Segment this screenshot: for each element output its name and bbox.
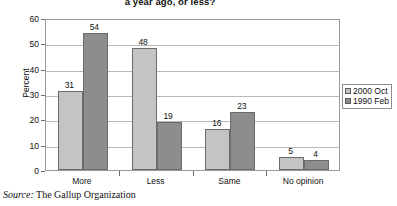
bar-same-2000-oct: [205, 129, 230, 170]
y-tick-label: 50: [13, 40, 39, 49]
y-axis-title: Percent: [21, 53, 31, 113]
chart-title: a year ago, or less?: [0, 0, 340, 7]
x-group-separator: [119, 171, 120, 176]
bar-value-label: 5: [278, 147, 303, 156]
bar-no-opinion-1990-feb: [304, 160, 329, 170]
bar-value-label: 48: [131, 38, 156, 47]
legend-item-2000-oct[interactable]: 2000 Oct: [345, 86, 389, 96]
legend-label: 1990 Feb: [353, 97, 389, 106]
bar-value-label: 16: [204, 119, 229, 128]
x-category-label: More: [45, 177, 119, 186]
y-tick-label: 60: [13, 15, 39, 24]
y-tick-label: 30: [13, 91, 39, 100]
legend-swatch-icon: [345, 98, 351, 104]
y-tick-label: 40: [13, 66, 39, 75]
bar-value-label: 19: [156, 112, 181, 121]
bar-less-1990-feb: [157, 122, 182, 170]
bar-value-label: 31: [57, 81, 82, 90]
bar-less-2000-oct: [132, 48, 157, 170]
source-note: Source: The Gallup Organization: [3, 189, 136, 200]
chart-legend: 2000 Oct1990 Feb: [342, 84, 392, 109]
legend-swatch-icon: [345, 88, 351, 94]
y-tick-label: 0: [13, 167, 39, 176]
x-group-separator: [193, 171, 194, 176]
x-category-label: No opinion: [266, 177, 340, 186]
bar-value-label: 4: [303, 150, 328, 159]
bar-more-1990-feb: [83, 33, 108, 170]
x-category-label: Same: [193, 177, 267, 186]
x-category-label: Less: [119, 177, 193, 186]
x-group-separator: [266, 171, 267, 176]
y-tick-mark: [41, 171, 45, 172]
bar-no-opinion-2000-oct: [279, 157, 304, 170]
source-text: The Gallup Organization: [36, 189, 136, 200]
bar-value-label: 23: [229, 102, 254, 111]
legend-label: 2000 Oct: [353, 87, 388, 96]
y-tick-label: 20: [13, 116, 39, 125]
bar-same-1990-feb: [230, 112, 255, 170]
source-label: Source:: [3, 189, 34, 200]
bar-value-label: 54: [82, 23, 107, 32]
legend-item-1990-feb[interactable]: 1990 Feb: [345, 96, 389, 106]
bar-more-2000-oct: [58, 91, 83, 170]
y-tick-label: 10: [13, 142, 39, 151]
